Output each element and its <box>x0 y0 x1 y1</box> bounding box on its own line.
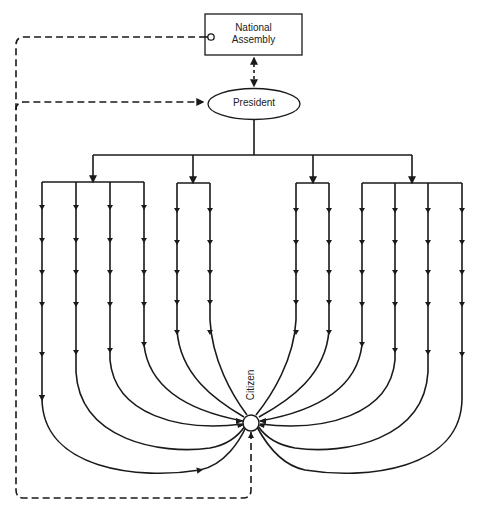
feedback-to-president <box>16 102 203 110</box>
national-assembly-label-line2: Assembly <box>205 34 302 46</box>
arrow-row-1 <box>39 205 465 213</box>
branch-line-2 <box>76 182 245 450</box>
authority-flow-diagram <box>0 0 478 514</box>
feedback-arrow-into-citizen <box>248 432 254 438</box>
arrow-row-2 <box>39 238 465 245</box>
national-assembly-label-line1: National <box>205 22 302 34</box>
branch-line-7 <box>256 183 296 415</box>
branch-line-10 <box>260 183 395 426</box>
branch-line-12 <box>257 183 462 473</box>
president-trunk <box>42 120 462 183</box>
national-assembly-label: National Assembly <box>205 22 302 46</box>
arrow-row-3 <box>39 270 465 275</box>
arrow-row-4 <box>39 300 465 307</box>
citizen-label: Citizen <box>245 360 257 410</box>
citizen-node <box>243 415 259 431</box>
arrow-row-5 <box>39 330 465 357</box>
branch-line-6 <box>210 183 247 415</box>
branch-line-11 <box>258 183 428 450</box>
president-label: President <box>208 97 300 109</box>
